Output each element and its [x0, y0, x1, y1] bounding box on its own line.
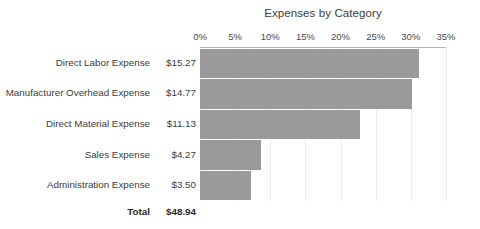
bar[interactable] — [200, 49, 419, 78]
total-label: Total — [127, 206, 150, 217]
bar-row — [200, 109, 446, 140]
x-tick-label: 5% — [228, 31, 242, 42]
total-row: Total $48.94 — [0, 200, 196, 222]
gridline — [446, 48, 447, 201]
category-row: Manufacturer Overhead Expense$14.77 — [0, 78, 196, 109]
bar[interactable] — [200, 171, 251, 200]
category-row: Direct Labor Expense$15.27 — [0, 47, 196, 78]
bar[interactable] — [200, 110, 360, 139]
category-amount: $14.77 — [156, 87, 196, 98]
bars-layer — [200, 48, 446, 201]
category-name: Sales Expense — [85, 149, 150, 160]
category-name: Manufacturer Overhead Expense — [6, 87, 150, 98]
x-tick-label: 35% — [436, 31, 455, 42]
x-tick-label: 0% — [193, 31, 207, 42]
x-tick-label: 25% — [366, 31, 385, 42]
total-value: $48.94 — [156, 206, 196, 217]
category-name: Direct Material Expense — [46, 118, 150, 129]
bar[interactable] — [200, 79, 412, 108]
bar-row — [200, 48, 446, 79]
expenses-by-category-chart: Expenses by Category 0%5%10%15%20%25%30%… — [0, 0, 480, 229]
category-name: Direct Labor Expense — [56, 57, 150, 68]
x-tick-label: 15% — [296, 31, 315, 42]
category-row: Administration Expense$3.50 — [0, 169, 196, 200]
x-tick-label: 30% — [401, 31, 420, 42]
bar-row — [200, 79, 446, 110]
category-row: Direct Material Expense$11.13 — [0, 108, 196, 139]
chart-title: Expenses by Category — [200, 7, 446, 19]
category-amount: $15.27 — [156, 57, 196, 68]
bar-row — [200, 170, 446, 201]
category-amount: $11.13 — [156, 118, 196, 129]
bar[interactable] — [200, 140, 261, 169]
category-amount: $4.27 — [156, 149, 196, 160]
x-tick-label: 10% — [261, 31, 280, 42]
category-row: Sales Expense$4.27 — [0, 139, 196, 170]
x-tick-label: 20% — [331, 31, 350, 42]
plot-area — [200, 47, 446, 201]
bar-row — [200, 140, 446, 171]
category-name: Administration Expense — [47, 179, 150, 190]
category-amount: $3.50 — [156, 179, 196, 190]
x-axis-tick-labels: 0%5%10%15%20%25%30%35% — [0, 31, 480, 45]
category-label-column: Direct Labor Expense$15.27Manufacturer O… — [0, 47, 196, 200]
